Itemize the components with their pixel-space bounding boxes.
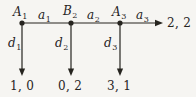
down-arrowhead-icon-3 bbox=[117, 69, 123, 77]
action-label-d1-base: d bbox=[8, 36, 16, 50]
node-label-A1: A1 bbox=[13, 6, 27, 18]
node-label-B2: B2 bbox=[63, 5, 77, 17]
payoff-down-1: 1, 0 bbox=[10, 80, 34, 92]
action-label-a1-base: a bbox=[38, 8, 45, 22]
right-arrowhead-icon bbox=[155, 20, 163, 26]
node-dot-1 bbox=[19, 20, 24, 25]
action-label-d2-sub: 2 bbox=[63, 43, 68, 52]
game-tree-diagram: A1 B2 A3 a1 a2 a3 d1 d2 d3 1, 0 0, 2 3, … bbox=[0, 0, 196, 97]
action-label-a2-sub: 2 bbox=[95, 15, 100, 24]
action-label-d3-base: d bbox=[104, 36, 112, 50]
node-label-B2-base: B bbox=[63, 4, 72, 18]
action-label-d1: d1 bbox=[8, 37, 21, 49]
payoff-down-2: 0, 2 bbox=[58, 80, 82, 92]
node-label-A1-base: A bbox=[13, 5, 22, 19]
node-label-A3-base: A bbox=[112, 5, 121, 19]
down-arrowhead-icon-2 bbox=[68, 69, 74, 77]
node-label-A1-sub: 1 bbox=[22, 12, 27, 21]
payoff-down-3: 3, 1 bbox=[107, 80, 131, 92]
node-dot-2 bbox=[68, 20, 73, 25]
action-label-d2: d2 bbox=[55, 37, 68, 49]
payoff-across: 2, 2 bbox=[167, 17, 191, 29]
action-label-d2-base: d bbox=[55, 36, 63, 50]
node-label-A3-sub: 3 bbox=[121, 12, 126, 21]
action-label-a2-base: a bbox=[87, 8, 94, 22]
action-label-a1-sub: 1 bbox=[46, 15, 51, 24]
node-label-A3: A3 bbox=[112, 6, 126, 18]
action-label-d3-sub: 3 bbox=[112, 43, 117, 52]
action-label-d3: d3 bbox=[104, 37, 117, 49]
action-label-d1-sub: 1 bbox=[16, 43, 21, 52]
action-label-a3: a3 bbox=[136, 9, 148, 21]
action-label-a3-sub: 3 bbox=[144, 15, 149, 24]
action-label-a2: a2 bbox=[87, 9, 99, 21]
node-label-B2-sub: 2 bbox=[72, 11, 77, 20]
action-label-a1: a1 bbox=[38, 9, 50, 21]
node-dot-3 bbox=[117, 20, 122, 25]
action-label-a3-base: a bbox=[136, 8, 143, 22]
down-arrowhead-icon-1 bbox=[19, 69, 25, 77]
